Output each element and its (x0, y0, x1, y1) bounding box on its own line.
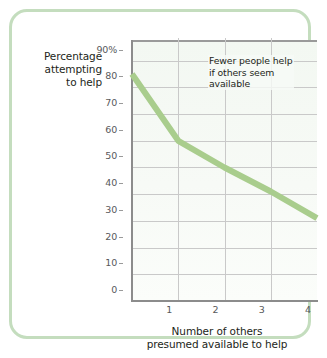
y-axis-tick-label: 60 (81, 124, 117, 135)
y-axis-tick-label: 10 (81, 257, 117, 268)
y-axis-tick-label: 20 (81, 231, 117, 242)
figure-frame: Percentage attempting to help 0102030405… (9, 9, 311, 339)
x-axis-title: Number of others presumed available to h… (107, 325, 327, 351)
y-axis-tick-label: 70 (81, 97, 117, 108)
y-axis-tick-mark (119, 263, 123, 264)
annotation-line-2: if others seem (209, 67, 293, 79)
y-axis-tick-mark (119, 237, 123, 238)
y-axis-tick-mark (119, 183, 123, 184)
y-axis-tick-label: 90% (81, 44, 117, 55)
chart-annotation: Fewer people help if others seem availab… (208, 55, 294, 90)
y-axis-tick-mark (119, 103, 123, 104)
x-axis-title-line-2: presumed available to help (107, 338, 327, 351)
x-axis-tick-label: 2 (206, 304, 226, 315)
y-axis-tick-mark (119, 156, 123, 157)
y-axis-tick-mark (119, 50, 123, 51)
x-axis-tick-label: 3 (252, 304, 272, 315)
y-axis-tick-mark (119, 130, 123, 131)
y-axis-tick-mark (119, 290, 123, 291)
annotation-line-1: Fewer people help (209, 55, 293, 67)
y-axis-tick-label: 50 (81, 150, 117, 161)
y-axis-tick-label: 30 (81, 204, 117, 215)
annotation-line-3: available (209, 78, 293, 90)
y-axis-tick-mark (119, 76, 123, 77)
x-axis-tick-label: 1 (159, 304, 179, 315)
x-axis-tick-label: 4 (298, 304, 318, 315)
y-axis-tick-label: 80 (81, 70, 117, 81)
y-axis-tick-label: 40 (81, 177, 117, 188)
y-axis-tick-label: 0 (81, 284, 117, 295)
y-axis-tick-mark (119, 210, 123, 211)
x-axis-title-line-1: Number of others (107, 325, 327, 338)
